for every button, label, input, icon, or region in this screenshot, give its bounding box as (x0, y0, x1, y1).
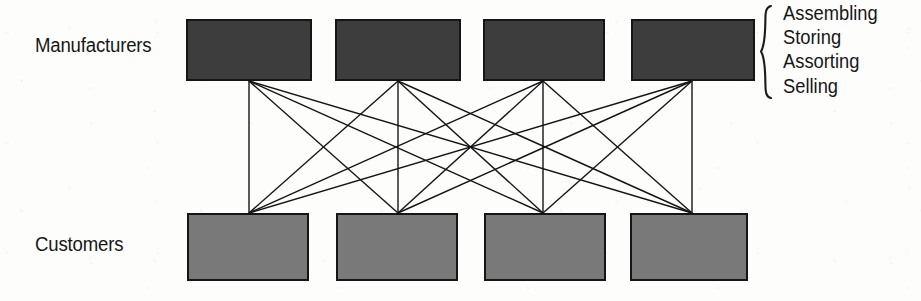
row-label-customers: Customers (35, 233, 123, 256)
functions-annotation: AssemblingStoringAssortingSelling (757, 4, 921, 100)
row-label-manufacturers: Manufacturers (35, 34, 151, 57)
link-m2-c1 (249, 81, 398, 213)
node-manufacturers-4[interactable] (631, 19, 755, 81)
node-customers-2[interactable] (336, 213, 458, 281)
link-m2-c3 (398, 81, 543, 213)
link-m1-c3 (249, 81, 543, 213)
diagram-canvas: Manufacturers Customers AssemblingStorin… (0, 0, 921, 301)
function-item-2: Storing (783, 25, 878, 49)
function-list: AssemblingStoringAssortingSelling (783, 1, 884, 98)
link-m2-c4 (398, 81, 692, 213)
link-m4-c1 (249, 81, 692, 213)
link-m4-c2 (398, 81, 692, 213)
function-item-1: Assembling (783, 1, 878, 25)
function-item-4: Selling (783, 74, 878, 98)
node-manufacturers-1[interactable] (186, 19, 312, 81)
node-customers-1[interactable] (187, 213, 309, 281)
link-m1-c4 (249, 81, 692, 213)
link-m4-c3 (543, 81, 692, 213)
link-m3-c2 (398, 81, 543, 213)
curly-brace-icon (757, 4, 779, 100)
function-item-3: Assorting (783, 49, 878, 73)
node-manufacturers-2[interactable] (335, 19, 461, 81)
node-customers-4[interactable] (630, 213, 748, 281)
node-customers-3[interactable] (484, 213, 606, 281)
link-m3-c4 (543, 81, 692, 213)
link-m1-c2 (249, 81, 398, 213)
link-m3-c1 (249, 81, 543, 213)
node-manufacturers-3[interactable] (483, 19, 605, 81)
